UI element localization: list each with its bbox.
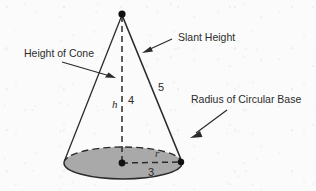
base-rim-dot (178, 159, 184, 165)
height-value-label: 4 (128, 94, 134, 106)
height-of-cone-arrowhead (105, 73, 116, 79)
height-of-cone-label: Height of Cone (24, 47, 94, 59)
height-variable-label: h (112, 98, 118, 110)
apex-vertex-dot (118, 10, 125, 17)
cone-left-side (64, 15, 122, 161)
cone-right-side-slant (122, 15, 182, 161)
cone-figure: Height of Cone Slant Height Radius of Ci… (0, 0, 316, 191)
slant-height-arrowhead (142, 47, 153, 54)
slant-value-label: 5 (158, 81, 164, 93)
base-center-dot (119, 160, 126, 167)
radius-variable-label: r (155, 147, 160, 159)
radius-label-arrowhead (190, 131, 203, 138)
radius-value-label: 3 (148, 166, 154, 178)
radius-of-circular-base-label: Radius of Circular Base (191, 93, 301, 105)
cone-diagram-canvas: Height of Cone Slant Height Radius of Ci… (0, 0, 316, 191)
radius-label-leader-line (196, 110, 227, 133)
slant-height-label: Slant Height (178, 31, 235, 43)
slant-height-leader-line (148, 39, 172, 50)
